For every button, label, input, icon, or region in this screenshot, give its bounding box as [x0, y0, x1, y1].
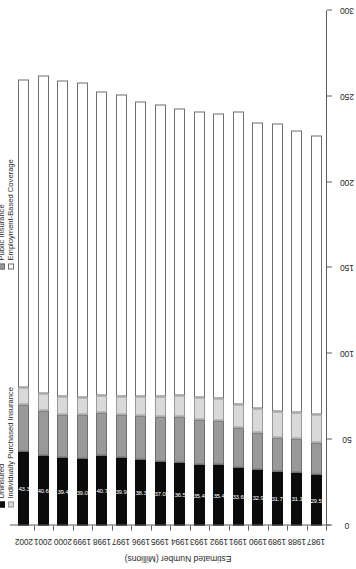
category-axis-label: 1994 [171, 537, 189, 546]
category-axis-line [10, 524, 330, 525]
category-axis-tickmark [209, 525, 210, 530]
category-axis-label: 2000 [54, 537, 72, 546]
category-axis-label: 1998 [93, 537, 111, 546]
category-axis-tickmark [53, 525, 54, 530]
category-axis-tickmark [326, 525, 327, 530]
category-axis-tickmark [248, 525, 249, 530]
category-axis-label: 2002 [15, 537, 33, 546]
category-axis-tickmark [229, 525, 230, 530]
category-axis-label: 1990 [249, 537, 267, 546]
category-axis-label: 1988 [288, 537, 306, 546]
category-axis-label: 1999 [73, 537, 91, 546]
category-axis-label: 1991 [229, 537, 247, 546]
category-axis-tickmark [151, 525, 152, 530]
chart-figure: Estimated Number (Millions) 050100150200… [0, 0, 356, 569]
category-axis-label: 1992 [210, 537, 228, 546]
category-axis-label: 1995 [151, 537, 169, 546]
category-axis-tickmark [34, 525, 35, 530]
category-axis-tickmark [73, 525, 74, 530]
category-axis-tickmark [268, 525, 269, 530]
category-axis-label: 1987 [307, 537, 325, 546]
category-axis-tickmark [170, 525, 171, 530]
category-axis-tickmark [307, 525, 308, 530]
category-axis-label: 2001 [34, 537, 52, 546]
category-axis-labels: 1987198819891990199119921993199419951996… [0, 0, 356, 569]
category-axis-tickmark [131, 525, 132, 530]
category-axis-tickmark [92, 525, 93, 530]
rotated-figure-container: Estimated Number (Millions) 050100150200… [0, 0, 356, 569]
category-axis-tickmark [287, 525, 288, 530]
category-axis-label: 1996 [132, 537, 150, 546]
category-axis-tickmark [112, 525, 113, 530]
category-axis-label: 1993 [190, 537, 208, 546]
category-axis-label: 1997 [112, 537, 130, 546]
category-axis-label: 1989 [268, 537, 286, 546]
category-axis-tickmark [190, 525, 191, 530]
